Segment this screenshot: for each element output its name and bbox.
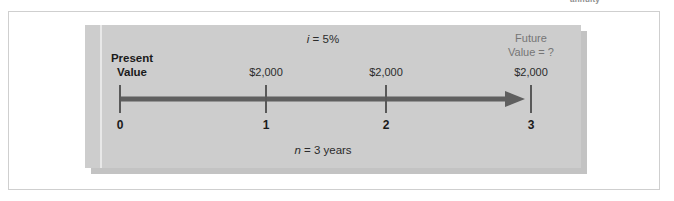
future-value-line2: Value = ? — [508, 46, 554, 58]
cashflow-amount-period-1: $2,000 — [226, 66, 306, 78]
period-label-2: 2 — [366, 118, 406, 132]
interest-rate-value: = 5% — [313, 33, 340, 45]
periods-value: = 3 years — [304, 144, 352, 156]
tick-period-2 — [385, 85, 387, 113]
present-value-line2: Value — [117, 66, 147, 78]
period-label-0: 0 — [100, 118, 140, 132]
present-value-label: Present Value — [95, 52, 169, 79]
cashflow-amount-period-3: $2,000 — [491, 66, 571, 78]
tick-period-1 — [265, 85, 267, 113]
future-value-line1: Future — [515, 32, 547, 44]
period-label-1: 1 — [246, 118, 286, 132]
periods-symbol: n — [294, 144, 300, 156]
period-label-3: 3 — [511, 118, 551, 132]
clipped-caption-fragment: annuity — [525, 0, 645, 5]
interest-rate-symbol: i — [307, 33, 310, 45]
tick-period-0 — [119, 85, 121, 113]
scan-artifact-band — [100, 25, 102, 168]
periods-label: n = 3 years — [258, 144, 388, 156]
future-value-label: Future Value = ? — [487, 32, 575, 59]
present-value-line1: Present — [111, 52, 153, 64]
interest-rate-label: i = 5% — [268, 33, 378, 45]
tick-period-3 — [530, 85, 532, 113]
cashflow-amount-period-2: $2,000 — [346, 66, 426, 78]
